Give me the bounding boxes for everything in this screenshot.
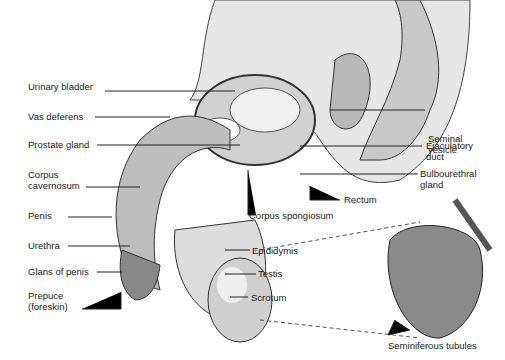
label-penis: Penis — [28, 210, 52, 221]
label-glans-of-penis: Glans of penis — [28, 266, 89, 277]
label-urethra: Urethra — [28, 240, 60, 251]
label-testis: Testis — [258, 268, 282, 279]
label-epididymis: Epididymis — [252, 245, 298, 256]
label-vas-deferens: Vas deferens — [28, 111, 83, 122]
label-urinary-bladder: Urinary bladder — [28, 81, 93, 92]
label-bulbourethral-gland: Bulbourethral gland — [420, 168, 477, 190]
label-seminiferous-tubules: Seminiferous tubules — [388, 340, 477, 351]
label-rectum: Rectum — [344, 194, 377, 205]
label-prostate-gland: Prostate gland — [28, 139, 89, 150]
label-prepuce: Prepuce (foreskin) — [28, 290, 68, 312]
label-ejaculatory-duct: Ejaculatory duct — [426, 140, 473, 162]
label-corpus-cavernosum: Corpus cavernosum — [28, 169, 80, 191]
label-corpus-spongiosum: Corpus spongiosum — [249, 210, 334, 221]
label-scrotum: Scrotum — [251, 292, 286, 303]
